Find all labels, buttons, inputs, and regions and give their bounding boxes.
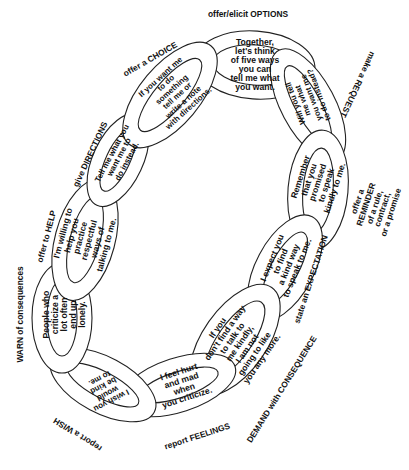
link-text-warn: People who criticize a lot often end up …: [42, 280, 87, 350]
category-label-options: offer/elicit OPTIONS: [208, 10, 288, 19]
category-label-warn: WARN of consequences: [16, 266, 25, 362]
